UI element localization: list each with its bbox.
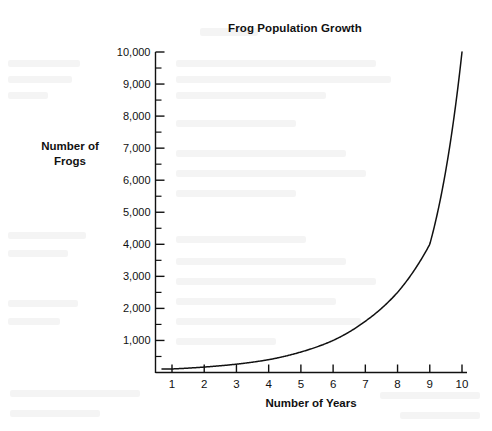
- x-axis-tick-label: 5: [298, 378, 304, 390]
- x-axis-tick-label: 4: [265, 378, 272, 390]
- x-axis-tick-label: 8: [394, 378, 400, 390]
- x-axis-tick-label: 2: [201, 378, 207, 390]
- y-axis-ticks: [156, 52, 165, 356]
- x-axis-tick-label: 10: [456, 378, 469, 390]
- y-axis-tick-label: 1,000: [123, 334, 151, 346]
- y-axis-tick-labels: 1,0002,0003,0004,0005,0006,0007,0008,000…: [117, 46, 151, 346]
- y-axis-tick-label: 6,000: [123, 174, 151, 186]
- x-axis-tick-label: 6: [330, 378, 336, 390]
- y-axis-tick-label: 4,000: [123, 238, 151, 250]
- y-axis-tick-label: 9,000: [123, 78, 151, 90]
- x-axis-tick-label: 3: [233, 378, 239, 390]
- x-axis-tick-label: 7: [362, 378, 368, 390]
- plot-area: 1,0002,0003,0004,0005,0006,0007,0008,000…: [0, 0, 492, 431]
- data-series-line: [162, 52, 462, 369]
- chart-figure: Frog Population Growth Number of Frogs N…: [0, 0, 492, 431]
- x-axis-tick-label: 9: [427, 378, 433, 390]
- x-axis-tick-label: 1: [169, 378, 175, 390]
- x-axis-tick-labels: 12345678910: [169, 378, 469, 390]
- y-axis-tick-label: 5,000: [123, 206, 151, 218]
- y-axis-tick-label: 7,000: [123, 142, 151, 154]
- y-axis-tick-label: 10,000: [117, 46, 151, 58]
- y-axis-tick-label: 2,000: [123, 302, 151, 314]
- axes: [156, 52, 468, 373]
- y-axis-tick-label: 8,000: [123, 110, 151, 122]
- y-axis-tick-label: 3,000: [123, 270, 151, 282]
